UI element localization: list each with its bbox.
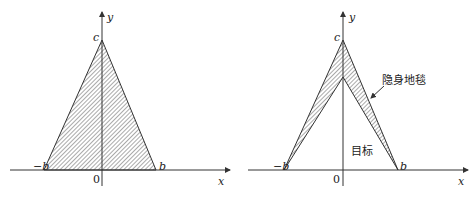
y-axis-label: y [107,12,113,23]
y-axis-label: y [349,12,355,23]
right-base-label: b [400,161,407,172]
apex-label: c [334,32,340,43]
target-label: 目标 [351,146,373,157]
carpet-pointer-arrow [371,86,384,98]
x-axis-label: x [458,176,464,187]
left-base-label: −b [33,161,49,172]
x-axis-label: x [218,176,224,187]
origin-label: 0 [93,174,100,185]
stealth-carpet-label: 隐身地毯 [382,75,426,86]
stealth-carpet-shell [284,40,398,170]
right-base-label: b [159,161,166,172]
apex-label: c [93,32,99,43]
target-triangle [44,40,156,170]
origin-label: 0 [333,174,340,185]
left-base-label: −b [273,161,289,172]
